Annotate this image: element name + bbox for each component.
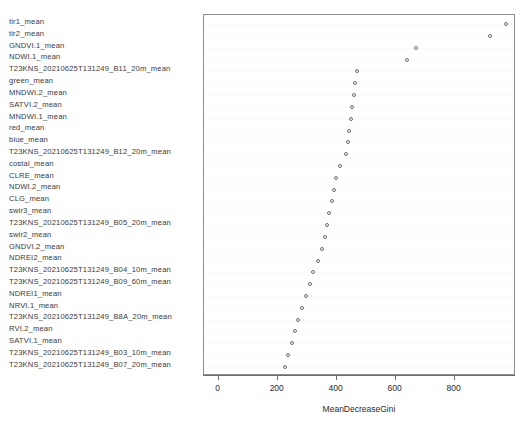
data-point xyxy=(344,152,348,156)
variable-label: GNDVI.1_mean xyxy=(9,42,64,50)
data-point xyxy=(347,129,351,133)
x-axis-tick-label: 600 xyxy=(388,383,402,393)
variable-label: tir1_mean xyxy=(9,18,44,26)
variable-label: NDREI2_mean xyxy=(9,254,62,262)
grid-line xyxy=(204,320,514,321)
data-point xyxy=(349,117,353,121)
data-point xyxy=(316,259,320,263)
data-point xyxy=(320,247,324,251)
grid-line xyxy=(204,308,514,309)
data-point xyxy=(296,318,300,322)
data-point xyxy=(352,93,356,97)
data-point xyxy=(330,199,334,203)
grid-line xyxy=(204,296,514,297)
data-point xyxy=(286,353,290,357)
data-point xyxy=(350,105,354,109)
grid-line xyxy=(204,83,514,84)
data-point xyxy=(332,188,336,192)
variable-label: T23KNS_20210625T131249_B03_10m_mean xyxy=(9,349,171,357)
variable-label: green_mean xyxy=(9,77,53,85)
variable-label: blue_mean xyxy=(9,136,48,144)
grid-line xyxy=(204,107,514,108)
grid-line xyxy=(204,343,514,344)
grid-line xyxy=(204,154,514,155)
data-point xyxy=(300,306,304,310)
grid-line xyxy=(204,355,514,356)
x-axis-tick xyxy=(336,375,337,380)
x-axis-title: MeanDecreaseGini xyxy=(203,404,515,414)
variable-label: costal_mean xyxy=(9,160,54,168)
data-point xyxy=(311,270,315,274)
data-point xyxy=(488,34,492,38)
data-point xyxy=(338,164,342,168)
grid-line xyxy=(204,237,514,238)
variable-label: NRVI.1_mean xyxy=(9,302,58,310)
grid-line xyxy=(204,249,514,250)
grid-line xyxy=(204,95,514,96)
grid-line xyxy=(204,190,514,191)
variable-label: swir2_mean xyxy=(9,231,51,239)
grid-line xyxy=(204,201,514,202)
variable-label: GNDVI.2_mean xyxy=(9,243,64,251)
variable-label: T23KNS_20210625T131249_B07_20m_mean xyxy=(9,361,171,369)
variable-label: CLRE_mean xyxy=(9,172,54,180)
variable-label: MNDWI.1_mean xyxy=(9,113,67,121)
data-point xyxy=(353,81,357,85)
x-axis-tick xyxy=(395,375,396,380)
variable-label-column: tir1_meantir2_meanGNDVI.1_meanNDWI.1_mea… xyxy=(9,14,201,375)
variable-label: SATVI.2_mean xyxy=(9,101,62,109)
data-point xyxy=(504,22,508,26)
data-point xyxy=(346,140,350,144)
grid-line xyxy=(204,131,514,132)
variable-label: swir3_mean xyxy=(9,207,51,215)
variable-label: tir2_mean xyxy=(9,30,44,38)
grid-line xyxy=(204,213,514,214)
x-axis-line xyxy=(203,375,515,376)
data-point xyxy=(283,365,287,369)
random-forest-variable-importance-chart: tir1_meantir2_meanGNDVI.1_meanNDWI.1_mea… xyxy=(0,0,526,428)
grid-line xyxy=(204,119,514,120)
x-axis-tick-label: 400 xyxy=(329,383,343,393)
grid-line xyxy=(204,48,514,49)
variable-label: CLG_mean xyxy=(9,195,49,203)
x-axis-tick xyxy=(454,375,455,380)
x-axis-tick-label: 800 xyxy=(447,383,461,393)
grid-line xyxy=(204,71,514,72)
grid-line xyxy=(204,36,514,37)
grid-line xyxy=(204,166,514,167)
grid-line xyxy=(204,367,514,368)
variable-label: T23KNS_20210625T131249_B11_20m_mean xyxy=(9,65,170,73)
data-point xyxy=(308,282,312,286)
variable-label: NDWI.2_mean xyxy=(9,183,60,191)
variable-label: red_mean xyxy=(9,124,44,132)
chart-title xyxy=(0,0,526,6)
variable-label: T23KNS_20210625T131249_B04_10m_mean xyxy=(9,266,171,274)
variable-label: T23KNS_20210625T131249_B12_20m_mean xyxy=(9,148,171,156)
grid-line xyxy=(204,142,514,143)
x-axis-tick-label: 0 xyxy=(215,383,220,393)
grid-line xyxy=(204,60,514,61)
x-axis-tick-label: 200 xyxy=(270,383,284,393)
grid-line xyxy=(204,261,514,262)
grid-line xyxy=(204,178,514,179)
data-point xyxy=(325,223,329,227)
grid-line xyxy=(204,225,514,226)
data-point xyxy=(323,235,327,239)
grid-line xyxy=(204,24,514,25)
data-point xyxy=(355,69,359,73)
variable-label: NDREI1_mean xyxy=(9,290,62,298)
data-point xyxy=(327,211,331,215)
variable-label: SATVI.1_mean xyxy=(9,337,62,345)
data-point xyxy=(334,176,338,180)
data-point xyxy=(290,341,294,345)
data-point xyxy=(405,58,409,62)
data-point xyxy=(304,294,308,298)
grid-line xyxy=(204,331,514,332)
plot-area xyxy=(203,14,515,375)
variable-label: NDWI.1_mean xyxy=(9,53,60,61)
data-point xyxy=(414,46,418,50)
grid-line xyxy=(204,272,514,273)
data-point xyxy=(293,329,297,333)
variable-label: T23KNS_20210625T131249_B09_60m_mean xyxy=(9,278,171,286)
x-axis-tick xyxy=(218,375,219,380)
